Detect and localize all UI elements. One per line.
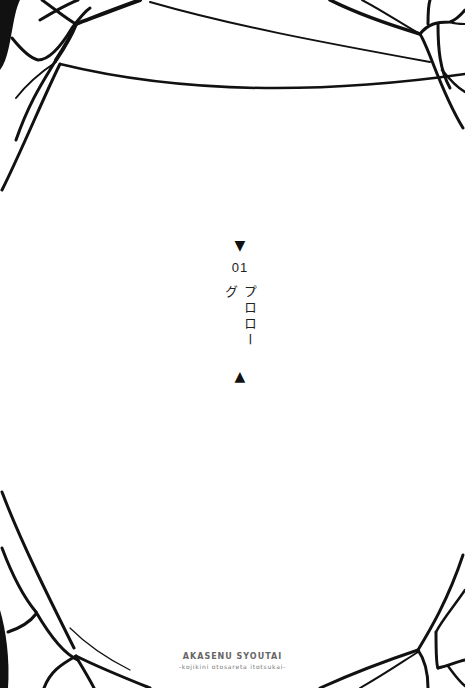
series-subtitle: -kojikini otosareta itotsukai-	[0, 663, 465, 670]
web-top-left	[0, 0, 20, 70]
triangle-down-icon: ▼	[235, 238, 246, 252]
series-footer: AKASENU SYOUTAI -kojikini otosareta itot…	[0, 652, 465, 670]
chapter-title-page: ▼ 01 プロローグ ▲ AKASENU SYOUTAI -kojikini o…	[0, 0, 465, 688]
triangle-up-icon: ▲	[235, 369, 246, 383]
chapter-title: プロローグ	[221, 285, 259, 357]
web-bottom-left	[0, 610, 9, 688]
chapter-number: 01	[232, 260, 248, 275]
chapter-heading: ▼ 01 プロローグ ▲	[222, 238, 258, 383]
series-title: AKASENU SYOUTAI	[0, 652, 465, 661]
